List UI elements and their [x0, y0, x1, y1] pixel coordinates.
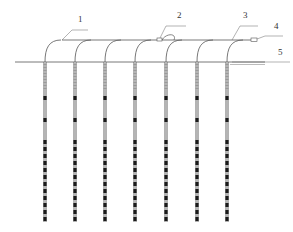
fitting-4: [251, 38, 257, 42]
vertical-pipe-6: [195, 62, 198, 222]
callout-leader-2: [160, 26, 186, 38]
branch-pipes: [45, 40, 243, 62]
vertical-pipes: [43, 62, 228, 222]
branch-pipe-2: [75, 40, 91, 62]
vertical-pipe-1: [43, 62, 46, 222]
branch-pipe-6: [197, 40, 213, 62]
vertical-pipe-7: [225, 62, 228, 222]
fitting-2: [157, 38, 162, 41]
branch-pipe-7: [227, 40, 243, 62]
vertical-pipe-2: [73, 62, 76, 222]
callout-leader-4: [257, 36, 283, 39]
vertical-pipe-3: [103, 62, 106, 222]
callout-label-5: 5: [278, 47, 283, 57]
callout-label-4: 4: [274, 21, 279, 31]
callout-label-2: 2: [177, 10, 182, 20]
callout-label-1: 1: [78, 14, 83, 24]
callouts: 12345: [62, 10, 290, 62]
loop-bypass: [162, 35, 175, 40]
branch-pipe-1: [45, 40, 61, 62]
branch-pipe-4: [135, 40, 151, 62]
callout-label-3: 3: [243, 10, 248, 20]
vertical-pipe-4: [133, 62, 136, 222]
callout-leader-1: [62, 30, 88, 40]
branch-pipe-5: [166, 40, 182, 62]
pipe-schematic-diagram: 12345: [0, 0, 293, 232]
branch-pipe-3: [105, 40, 121, 62]
vertical-pipe-5: [164, 62, 167, 222]
